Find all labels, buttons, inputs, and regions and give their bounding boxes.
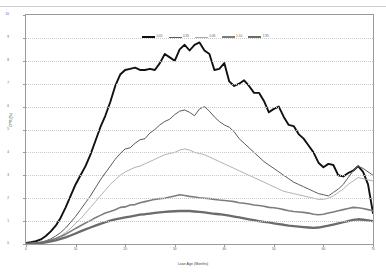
gridline [26, 130, 373, 131]
gridline [26, 175, 373, 176]
y-tick-label: 1 [0, 220, 9, 223]
x-tick-mark [125, 244, 126, 247]
legend-swatch-icon [222, 36, 235, 38]
legend-label: 0.35 [183, 35, 189, 38]
x-tick-mark [175, 244, 176, 247]
gridline [26, 107, 373, 108]
x-tick-label: 60 [313, 248, 333, 251]
y-tick-label: 4 [0, 151, 9, 154]
x-tick-label: 40 [214, 248, 234, 251]
x-tick-mark [76, 244, 77, 247]
cpr-chart-figure: 109876543210 0.050.350.651.101.95 010203… [0, 0, 386, 278]
y-tick-mark [23, 130, 25, 131]
gridline [26, 61, 373, 62]
x-tick-label: 70 [363, 248, 383, 251]
x-tick-label: 20 [115, 248, 135, 251]
y-tick-mark [23, 244, 25, 245]
x-tick-label: 50 [264, 248, 284, 251]
y-tick-mark [23, 175, 25, 176]
y-tick-label: 9 [0, 36, 9, 39]
legend-item[interactable]: 0.65 [195, 35, 216, 38]
y-tick-mark [23, 107, 25, 108]
chart-legend: 0.050.350.651.101.95 [142, 33, 308, 41]
legend-swatch-icon [248, 36, 261, 38]
legend-item[interactable]: 0.35 [169, 35, 190, 38]
y-axis-title: CPR (%) [9, 92, 13, 148]
y-tick-mark [23, 61, 25, 62]
legend-swatch-icon [195, 37, 208, 38]
x-tick-label: 0 [16, 248, 36, 251]
y-tick-mark [23, 15, 25, 16]
y-tick-mark [23, 38, 25, 39]
x-tick-mark [224, 244, 225, 247]
y-tick-label: 5 [0, 128, 9, 131]
x-tick-mark [373, 244, 374, 247]
x-tick-mark [323, 244, 324, 247]
y-tick-mark [23, 152, 25, 153]
legend-swatch-icon [142, 36, 155, 38]
legend-item[interactable]: 0.05 [142, 35, 163, 38]
y-tick-mark [23, 84, 25, 85]
y-tick-label: 0 [0, 242, 9, 245]
x-tick-label: 30 [165, 248, 185, 251]
legend-label: 1.95 [263, 35, 269, 38]
y-tick-label: 7 [0, 82, 9, 85]
x-axis-title: Loan Age (Months) [0, 262, 386, 266]
legend-item[interactable]: 1.10 [222, 35, 243, 38]
legend-swatch-icon [169, 37, 182, 38]
gridline [26, 84, 373, 85]
y-tick-label: 8 [0, 59, 9, 62]
legend-item[interactable]: 1.95 [248, 35, 269, 38]
y-tick-mark [23, 221, 25, 222]
gridline [26, 198, 373, 199]
y-tick-label: 6 [0, 105, 9, 108]
legend-label: 0.65 [210, 35, 216, 38]
y-tick-label: 3 [0, 174, 9, 177]
series-line-1-10 [26, 195, 373, 244]
gridline [26, 152, 373, 153]
x-tick-mark [274, 244, 275, 247]
header-divider [0, 6, 386, 7]
gridline [26, 221, 373, 222]
legend-label: 0.05 [157, 35, 163, 38]
x-tick-label: 10 [66, 248, 86, 251]
plot-area: 0.050.350.651.101.95 [25, 14, 374, 245]
y-tick-mark [23, 198, 25, 199]
x-tick-mark [26, 244, 27, 247]
y-tick-label: 10 [0, 13, 9, 16]
legend-label: 1.10 [236, 35, 242, 38]
series-line-0-65 [26, 149, 373, 244]
y-tick-label: 2 [0, 197, 9, 200]
